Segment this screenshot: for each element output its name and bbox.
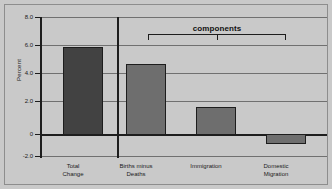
gridline-neg2 (41, 156, 327, 157)
y-tick-label-neg2: -2.0 (15, 153, 33, 159)
gridline-8 (41, 17, 327, 18)
y-tick-8 (35, 17, 41, 18)
bar-immigration[interactable] (196, 107, 236, 135)
category-label-total-change: Total Change (43, 163, 103, 178)
components-bracket (148, 34, 286, 40)
category-label-line2: Deaths (106, 171, 166, 179)
y-tick-label-0: 0 (15, 131, 33, 137)
bracket-tick-middle (217, 34, 218, 40)
y-tick-2 (35, 101, 41, 102)
category-label-immigration: Immigration (176, 163, 236, 171)
bracket-tick-left (148, 34, 149, 40)
y-tick-6 (35, 45, 41, 46)
y-tick-label-2: 2.0 (15, 98, 33, 104)
y-tick-4 (35, 73, 41, 74)
bar-domestic-migration[interactable] (266, 134, 306, 144)
bracket-tick-right (285, 34, 286, 40)
y-axis-line (40, 17, 42, 158)
category-label-line1: Domestic (246, 163, 306, 171)
gridline-6 (41, 45, 327, 46)
components-bracket-label: components (148, 24, 286, 33)
category-label-births-minus-deaths: Births minus Deaths (106, 163, 166, 178)
y-tick-label-8: 8.0 (15, 14, 33, 20)
category-label-line2: Migration (246, 171, 306, 179)
y-tick-neg2 (35, 156, 41, 157)
category-label-line1: Total (43, 163, 103, 171)
chart-frame: 8.0 6.0 4.0 2.0 0 -2.0 Percent component… (4, 4, 328, 185)
category-label-line2: Change (43, 171, 103, 179)
y-tick-0 (35, 134, 41, 135)
category-label-line1: Immigration (176, 163, 236, 171)
category-label-line1: Births minus (106, 163, 166, 171)
bar-total-change[interactable] (63, 47, 103, 135)
category-label-domestic-migration: Domestic Migration (246, 163, 306, 178)
chart-figure: 8.0 6.0 4.0 2.0 0 -2.0 Percent component… (0, 0, 332, 189)
bar-births-minus-deaths[interactable] (126, 64, 166, 135)
y-axis-title: Percent (16, 48, 22, 92)
section-separator (117, 17, 119, 158)
